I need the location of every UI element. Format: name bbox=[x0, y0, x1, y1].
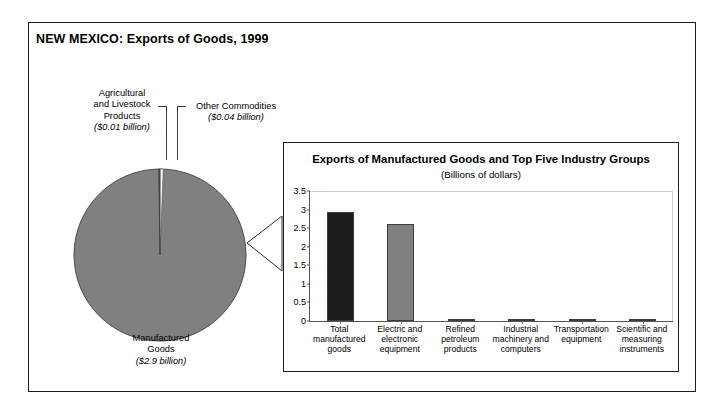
x-axis-labels: TotalmanufacturedgoodsElectric andelectr… bbox=[309, 325, 673, 365]
pie-label-agricultural-line3: Products bbox=[76, 111, 168, 122]
pie-label-other-value: ($0.04 billion) bbox=[180, 112, 292, 123]
y-axis-tick-mark bbox=[307, 302, 310, 303]
x-axis-category-label: Electric andelectronicequipment bbox=[369, 325, 431, 355]
pie-label-other-commodities: Other Commodities ($0.04 billion) bbox=[180, 101, 292, 124]
y-axis-tick-mark bbox=[307, 321, 310, 322]
y-axis-tick-label: 1.5 bbox=[293, 260, 306, 270]
bar-chart-plot-area: 00.511.522.533.5 bbox=[309, 191, 673, 322]
x-axis-category-label-line: instruments bbox=[611, 345, 673, 355]
y-axis-tick-label: 2 bbox=[301, 242, 306, 252]
y-axis-tick-label: 0 bbox=[301, 316, 306, 326]
pie-chart bbox=[60, 160, 260, 355]
pie-label-other-line1: Other Commodities bbox=[180, 101, 292, 112]
y-axis-tick-label: 3 bbox=[301, 205, 306, 215]
pie-label-agricultural-line2: and Livestock bbox=[76, 99, 168, 110]
y-axis-tick-label: 0.5 bbox=[293, 297, 306, 307]
bar-series bbox=[310, 191, 673, 321]
y-axis-tick-mark bbox=[307, 265, 310, 266]
y-axis-tick-label: 2.5 bbox=[293, 223, 306, 233]
x-axis-category-label-line: products bbox=[429, 345, 491, 355]
x-axis-category-label: Transportationequipment bbox=[550, 325, 612, 345]
pie-label-agricultural: Agricultural and Livestock Products ($0.… bbox=[76, 88, 168, 134]
pie-label-manufactured-line1: Manufactured bbox=[96, 333, 226, 344]
pie-label-agricultural-value: ($0.01 billion) bbox=[76, 122, 168, 133]
x-axis-category-label-line: equipment bbox=[369, 345, 431, 355]
figure-canvas: NEW MEXICO: Exports of Goods, 1999 Agric… bbox=[0, 0, 724, 419]
pie-label-manufactured: Manufactured Goods ($2.9 billion) bbox=[96, 333, 226, 367]
y-axis-tick-label: 1 bbox=[301, 279, 306, 289]
x-axis-category-label-line: goods bbox=[308, 345, 370, 355]
inset-chart-subtitle: (Billions of dollars) bbox=[284, 169, 678, 180]
bar bbox=[387, 224, 414, 321]
leader-line-other bbox=[177, 106, 178, 160]
callout-connector bbox=[246, 215, 286, 275]
bar bbox=[327, 212, 354, 321]
y-axis-tick-mark bbox=[307, 246, 310, 247]
x-axis-category-label-line: equipment bbox=[550, 335, 612, 345]
figure-title: NEW MEXICO: Exports of Goods, 1999 bbox=[36, 32, 269, 46]
inset-bar-chart-panel: Exports of Manufactured Goods and Top Fi… bbox=[283, 142, 679, 372]
y-axis-tick-label: 3.5 bbox=[293, 186, 306, 196]
pie-label-manufactured-value: ($2.9 billion) bbox=[96, 356, 226, 367]
x-axis-category-label: Industrialmachinery andcomputers bbox=[490, 325, 552, 355]
y-axis-tick-mark bbox=[307, 228, 310, 229]
pie-label-manufactured-line2: Goods bbox=[96, 344, 226, 355]
x-axis-category-label: Totalmanufacturedgoods bbox=[308, 325, 370, 355]
x-axis-category-label: Scientific andmeasuringinstruments bbox=[611, 325, 673, 355]
pie-label-agricultural-line1: Agricultural bbox=[76, 88, 168, 99]
y-axis-tick-mark bbox=[307, 191, 310, 192]
x-axis-category-label-line: computers bbox=[490, 345, 552, 355]
y-axis-tick-mark bbox=[307, 209, 310, 210]
y-axis-tick-mark bbox=[307, 283, 310, 284]
pie-chart-svg bbox=[60, 160, 260, 355]
inset-chart-title: Exports of Manufactured Goods and Top Fi… bbox=[284, 153, 678, 165]
x-axis-category-label: Refinedpetroleumproducts bbox=[429, 325, 491, 355]
